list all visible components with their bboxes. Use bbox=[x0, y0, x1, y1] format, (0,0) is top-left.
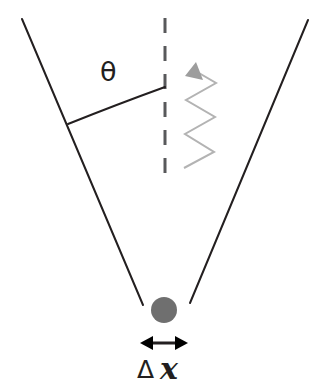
delta-x-double-arrow bbox=[140, 336, 188, 350]
arrowhead-left-icon bbox=[140, 336, 153, 350]
particle-dot bbox=[151, 297, 177, 323]
right-spread-line bbox=[190, 20, 308, 303]
delta-symbol-label: Δ bbox=[137, 355, 154, 384]
left-spread-line bbox=[22, 19, 143, 305]
diagram-svg: θ Δ x bbox=[0, 0, 323, 389]
arrowhead-right-icon bbox=[175, 336, 188, 350]
diffraction-diagram-canvas: θ Δ x bbox=[0, 0, 323, 389]
zigzag-wave-path bbox=[184, 69, 216, 168]
x-symbol-label: x bbox=[159, 351, 179, 386]
angle-label-theta: θ bbox=[100, 56, 117, 87]
zigzag-wave-arrow bbox=[184, 62, 216, 168]
wave-arrowhead-icon bbox=[185, 62, 203, 80]
angle-arc bbox=[68, 87, 165, 124]
